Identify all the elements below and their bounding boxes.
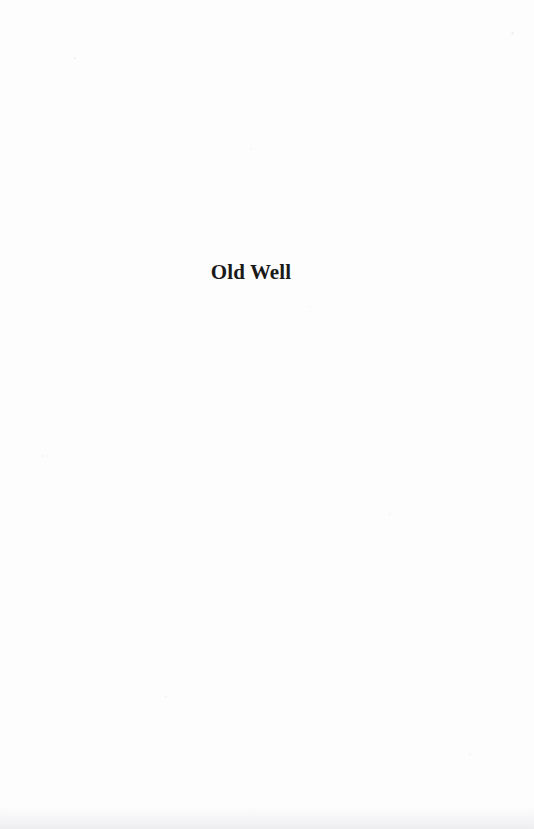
scan-noise-speckles bbox=[0, 0, 534, 829]
title-block: Old Well bbox=[0, 260, 534, 284]
scanned-page: Old Well bbox=[0, 0, 534, 829]
scan-bottom-edge-shadow bbox=[0, 807, 534, 829]
section-title: Old Well bbox=[211, 260, 291, 284]
scan-vignette bbox=[0, 0, 534, 829]
